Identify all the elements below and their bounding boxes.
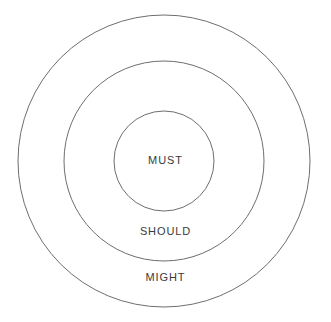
inner-ring-label-must: MUST <box>0 154 331 166</box>
middle-ring-label-should: SHOULD <box>0 225 331 237</box>
concentric-circles-diagram: MUST SHOULD MIGHT <box>0 0 331 322</box>
outer-ring-label-might: MIGHT <box>0 271 331 283</box>
